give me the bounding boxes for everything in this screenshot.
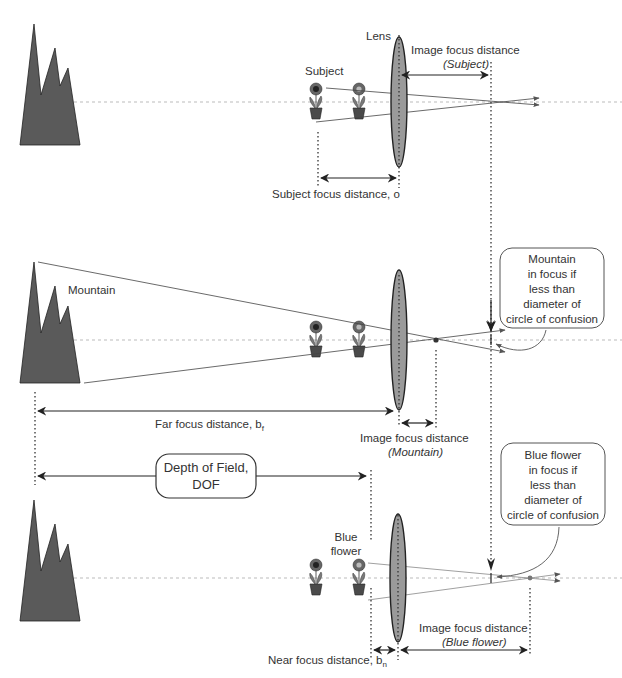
image-focus-label: Image focus distance xyxy=(411,44,520,56)
svg-text:diameter of: diameter of xyxy=(524,494,582,506)
mountain-label: Mountain xyxy=(68,284,115,296)
svg-text:circle of confusion: circle of confusion xyxy=(506,313,598,325)
blue-flower-icon xyxy=(353,559,365,595)
subject-label: Subject xyxy=(305,65,344,77)
blue-flower-icon xyxy=(353,83,365,119)
svg-text:circle of confusion: circle of confusion xyxy=(507,509,599,521)
svg-text:in focus if: in focus if xyxy=(528,268,577,280)
light-ray xyxy=(316,98,539,122)
red-flower-icon xyxy=(310,321,322,357)
svg-text:Mountain: Mountain xyxy=(528,253,575,265)
svg-text:DOF: DOF xyxy=(192,477,220,492)
svg-text:Blue flower: Blue flower xyxy=(525,449,582,461)
subject-focus-label: Subject focus distance, o xyxy=(272,188,400,200)
image-focus-label: Image focus distance xyxy=(419,622,528,634)
far-focus-label: Far focus distance, bf xyxy=(155,418,265,433)
depth-of-field-diagram: Lens Subject Image focus distance (Subje… xyxy=(0,0,622,678)
light-ray xyxy=(84,330,505,383)
red-flower-icon xyxy=(310,559,322,595)
svg-text:flower: flower xyxy=(331,545,362,557)
focus-point xyxy=(528,576,533,581)
mountain-icon xyxy=(20,262,80,383)
image-focus-sublabel: (Blue flower) xyxy=(442,636,507,648)
red-flower-icon xyxy=(310,83,322,119)
mountain-icon xyxy=(20,24,80,145)
svg-text:Depth of Field,: Depth of Field, xyxy=(164,460,249,475)
mountain-icon xyxy=(20,500,80,621)
image-focus-sublabel: (Subject) xyxy=(443,58,489,70)
focus-point xyxy=(433,337,438,342)
panel-bottom: Depth of Field, DOF Blue flower in focus… xyxy=(20,443,622,669)
near-focus-label: Near focus distance, bn xyxy=(268,654,387,669)
arrowhead-icon xyxy=(487,558,495,571)
svg-text:diameter of: diameter of xyxy=(523,298,581,310)
image-focus-sublabel: (Mountain) xyxy=(388,446,443,458)
svg-text:less than: less than xyxy=(530,479,576,491)
svg-text:less than: less than xyxy=(529,283,575,295)
blue-flower-label: Blue xyxy=(334,531,357,543)
lens-label: Lens xyxy=(366,30,391,42)
lens-icon xyxy=(390,514,406,642)
light-ray xyxy=(326,88,539,105)
image-focus-label: Image focus distance xyxy=(360,432,469,444)
svg-text:in focus if: in focus if xyxy=(529,464,578,476)
blue-flower-icon xyxy=(353,321,365,357)
